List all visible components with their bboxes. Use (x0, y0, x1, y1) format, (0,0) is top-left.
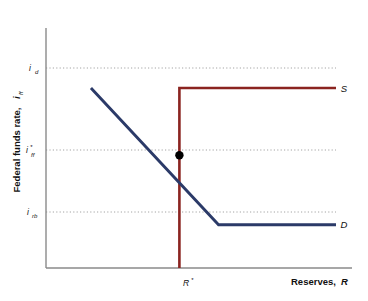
supply-curve-label: S (341, 83, 348, 94)
chart-background (0, 0, 368, 301)
chart-svg: S D i d i * ff i rb R * Reserves, R Fede… (0, 0, 368, 301)
x-axis-title-var: R (341, 276, 348, 287)
x-tick-r-star-main: R (183, 278, 189, 288)
y-axis-title-var: i (11, 96, 22, 99)
y-tick-i-rb-sub: rb (32, 213, 38, 219)
federal-funds-market-chart: S D i d i * ff i rb R * Reserves, R Fede… (0, 0, 368, 301)
equilibrium-point (175, 151, 183, 159)
y-axis-title-text: Federal funds rate, (11, 108, 22, 193)
demand-curve-label: D (341, 219, 348, 230)
x-axis-title-text: Reserves, (291, 276, 336, 287)
